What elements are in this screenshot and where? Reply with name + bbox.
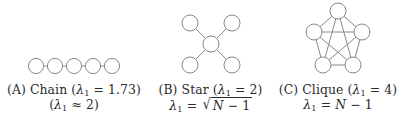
graph-topology-figure: (A) Chain (λ1 = 1.73) (λ1 ≈ 2) (B) Star … (0, 0, 403, 118)
radical-icon: √ (203, 94, 211, 112)
panel-chain: (A) Chain (λ1 = 1.73) (λ1 ≈ 2) (0, 0, 148, 118)
star-node-center (203, 36, 219, 52)
chain-caption-line1: (A) Chain (λ1 = 1.73) (0, 82, 148, 97)
clique-lambda-expression: (λ1 = 4) (344, 82, 398, 97)
star-edge-top-right (217, 29, 226, 38)
chain-node-5 (104, 58, 119, 73)
clique-lambda-formula: λ1 = N − 1 (303, 97, 372, 112)
star-label: (B) Star (158, 82, 208, 97)
clique-label: (C) Clique (279, 82, 344, 97)
chain-graph-diagram (0, 55, 148, 81)
star-edge-bottom-left (196, 50, 205, 59)
panel-clique: (C) Clique (λ1 = 4) λ1 = N − 1 (273, 0, 403, 118)
star-node-bottom-left (182, 57, 198, 73)
clique-graph-diagram (273, 2, 403, 78)
star-node-bottom-right (224, 57, 240, 73)
chain-lambda-approx: (λ1 ≈ 2) (49, 97, 99, 112)
star-caption-line2: λ1 = √N − 1 (148, 97, 273, 113)
chain-node-3 (66, 58, 81, 73)
clique-graph-svg (302, 2, 374, 76)
clique-node-upper-left (306, 24, 322, 40)
star-graph-diagram (148, 12, 273, 78)
star-node-top-right (224, 15, 240, 31)
clique-caption-line2: λ1 = N − 1 (273, 97, 403, 112)
clique-node-upper-right (354, 24, 370, 40)
star-lambda-formula: λ1 = √N − 1 (169, 98, 251, 113)
chain-node-4 (85, 58, 100, 73)
chain-label: (A) Chain (7, 82, 67, 97)
chain-graph-svg (26, 55, 122, 77)
chain-node-2 (47, 58, 62, 73)
clique-caption-line1: (C) Clique (λ1 = 4) (273, 82, 403, 97)
clique-node-lower-left (315, 57, 331, 73)
chain-node-1 (28, 58, 43, 73)
radicand: N − 1 (211, 97, 252, 113)
clique-node-top (330, 3, 346, 19)
clique-node-lower-right (345, 57, 361, 73)
star-edge-bottom-right (217, 50, 226, 59)
star-lambda-expression: (λ1 = 2) (209, 82, 263, 97)
panel-star: (B) Star (λ1 = 2) λ1 = √N − 1 (148, 0, 273, 118)
star-graph-svg (179, 12, 243, 76)
star-node-top-left (182, 15, 198, 31)
chain-lambda-expression: (λ1 = 1.73) (67, 82, 141, 97)
chain-caption-line2: (λ1 ≈ 2) (0, 97, 148, 112)
square-root-expression: √N − 1 (201, 97, 251, 113)
star-edge-top-left (196, 29, 205, 38)
